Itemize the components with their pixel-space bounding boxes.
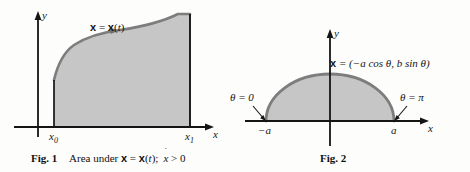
y-axis-arrowhead-fig2 [327,29,334,38]
y-axis-label-fig1: y [42,10,47,21]
curve-eq-paren-close-fig1: ) [121,21,125,33]
tick-label-x1: x1 [185,131,194,145]
x-axis-label-fig2: x [428,123,433,134]
caption-fig1-paren-close: ); [152,152,159,164]
curve-eq-equals-fig1: = [96,21,108,33]
dot-accent-icon: ˙ [164,146,167,156]
tick-label-a: a [391,125,397,136]
y-axis-label-fig2: y [334,28,339,39]
theta-zero-label-fig2: θ = 0 [230,92,254,103]
y-axis-arrowhead-fig1 [35,11,42,20]
tick-label-x0: x0 [49,131,58,145]
x-axis-label-fig1: x [213,129,218,140]
parametric-equation-fig2: x = (−a cos θ, b sin θ) [330,58,430,69]
curve-equation-fig1: x = x(t) [90,22,124,33]
figure-2: y x x = (−a cos θ, b sin θ) θ = 0 θ = π … [235,0,470,172]
caption-fig1-text: Area under [69,152,121,164]
figure-page: y x x = x(t) x0 x1 Fig. 1 Area under x =… [0,0,470,172]
caption-fig2-number: Fig. 2 [320,152,346,164]
caption-fig1: Fig. 1 Area under x = x(t);˙x > 0 [31,152,186,164]
caption-fig1-inequality: > 0 [168,152,185,164]
figure-1: y x x = x(t) x0 x1 Fig. 1 Area under x =… [0,0,235,172]
tick-x0-sub: 0 [54,136,58,145]
theta-pi-label-fig2: θ = π [400,92,424,103]
param-eq-body-fig2: = (−a cos θ, b sin θ) [336,57,429,69]
tick-x1-sub: 1 [190,136,194,145]
tick-label-minus-a: −a [258,125,271,136]
caption-fig2: Fig. 2 [320,152,346,164]
caption-fig1-equals: = [127,152,139,164]
caption-fig1-number: Fig. 1 [31,152,57,164]
caption-fig1-xdot: ˙x [163,152,168,164]
figure-2-graphic [235,0,470,172]
